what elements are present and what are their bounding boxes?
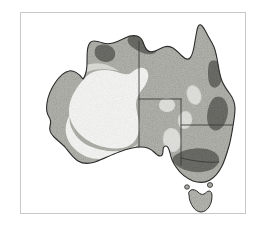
zone-label-medium: medium zone <box>21 215 22 216</box>
zone-label-very-light: very light zone <box>21 215 22 216</box>
mainland-australia <box>47 25 235 183</box>
zone-label-dark: dark zone <box>21 215 22 216</box>
map-frame: Australia thematic-shaded-map Mainland A… <box>20 12 246 214</box>
screenshot-root: Australia thematic-shaded-map Mainland A… <box>0 0 267 228</box>
map-stage: Australia thematic-shaded-map Mainland A… <box>21 13 247 215</box>
figure-kind: thematic-shaded-map <box>21 215 22 216</box>
map-caption <box>21 215 22 216</box>
bass-strait-island-east <box>207 183 212 188</box>
bass-strait-island-west <box>185 185 190 189</box>
queensland-blob-a <box>159 98 175 112</box>
australia-map-svg <box>21 13 247 215</box>
landmass-label-tasmania: Tasmania <box>21 215 22 216</box>
landmass-label-island-east: Flinders Island <box>21 215 22 216</box>
landmass-label-mainland: Mainland Australia <box>21 215 22 216</box>
tasmania-fill <box>189 190 212 212</box>
landmass-label-island-west: King Island <box>21 215 22 216</box>
bass-strait-islands <box>185 183 213 190</box>
figure-title: Australia <box>21 215 22 216</box>
zone-label-light: light zone <box>21 215 22 216</box>
tasmania <box>189 190 212 212</box>
